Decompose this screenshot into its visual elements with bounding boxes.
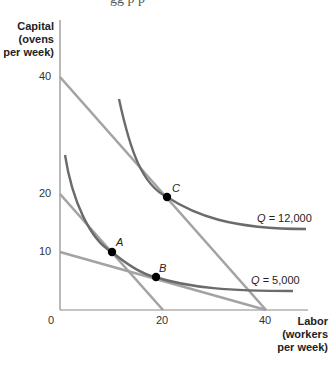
isoquant-curve-12000 xyxy=(119,99,306,229)
x-axis-title-line2: (workers xyxy=(272,328,328,341)
x-tick-40: 40 xyxy=(259,314,271,326)
point-a-marker xyxy=(108,248,116,256)
isoquant-label-12000: Q = 12,000 xyxy=(257,212,312,224)
y-tick-20: 20 xyxy=(39,187,51,199)
point-c-label: C xyxy=(172,182,180,194)
q-value-12000: = 12,000 xyxy=(269,212,312,224)
q-value-5000: = 5,000 xyxy=(263,274,300,286)
x-axis-title: Labor (workers per week) xyxy=(272,315,328,354)
point-c-marker xyxy=(163,193,171,201)
point-a-label: A xyxy=(116,236,123,248)
y-axis-title-line3: per week) xyxy=(0,46,54,59)
point-b-marker xyxy=(152,273,160,281)
point-b-label: B xyxy=(159,262,166,274)
y-axis-title-line1: Capital xyxy=(0,20,54,33)
y-tick-40: 40 xyxy=(39,70,51,82)
y-axis-title: Capital (ovens per week) xyxy=(0,20,54,59)
x-tick-20: 20 xyxy=(156,314,168,326)
y-axis-title-line2: (ovens xyxy=(0,33,54,46)
y-tick-10: 10 xyxy=(39,245,51,257)
isocost-line-10-40 xyxy=(60,252,266,310)
isoquant-label-5000: Q = 5,000 xyxy=(251,274,300,286)
x-axis-title-line1: Labor xyxy=(272,315,328,328)
x-axis-title-line3: per week) xyxy=(272,341,328,354)
origin-label: 0 xyxy=(48,314,54,326)
q-variable: Q xyxy=(257,212,266,224)
q-variable: Q xyxy=(251,274,260,286)
